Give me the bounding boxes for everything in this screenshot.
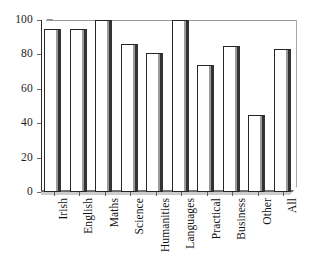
y-tick-label: 20 xyxy=(21,152,33,164)
y-tick-label: 80 xyxy=(21,49,33,61)
bar-slot xyxy=(44,20,61,192)
x-tick-label: English xyxy=(83,198,95,234)
x-tick-mark xyxy=(232,192,233,196)
bar-slot xyxy=(146,20,163,192)
bar-slot xyxy=(197,20,214,192)
bar-slot xyxy=(274,20,291,192)
y-tick-label: 60 xyxy=(21,83,33,95)
bar-slot xyxy=(121,20,138,192)
x-tick-mark xyxy=(181,192,182,196)
x-tick-mark xyxy=(79,192,80,196)
x-tick-label: Irish xyxy=(58,198,70,220)
x-tick-mark xyxy=(207,192,208,196)
bar-slot xyxy=(172,20,189,192)
x-tick-label: Science xyxy=(134,198,146,234)
y-tick-label: 100 xyxy=(15,14,33,26)
x-tick-mark xyxy=(105,192,106,196)
bar xyxy=(146,53,163,192)
bar xyxy=(172,20,189,192)
bar xyxy=(197,65,214,192)
x-tick-mark xyxy=(130,192,131,196)
y-tick-label: 0 xyxy=(27,186,33,198)
bar-slot xyxy=(70,20,87,192)
x-tick-mark xyxy=(258,192,259,196)
x-tick-label: Humanities xyxy=(160,198,172,252)
bar xyxy=(274,49,291,192)
x-tick-mark xyxy=(54,192,55,196)
y-tick-mark xyxy=(37,192,41,193)
bar-chart: 020406080100 IrishEnglishMathsScienceHum… xyxy=(0,0,318,267)
bar xyxy=(248,115,265,192)
y-axis: 020406080100 xyxy=(0,0,38,267)
x-axis: IrishEnglishMathsScienceHumanitiesLangua… xyxy=(41,196,296,267)
bar xyxy=(95,20,112,192)
bars-container xyxy=(41,20,296,192)
x-tick-mark xyxy=(283,192,284,196)
x-tick-label: Maths xyxy=(109,198,121,227)
x-tick-label: Business xyxy=(236,198,248,240)
x-tick-label: Languages xyxy=(185,198,197,249)
bar xyxy=(223,46,240,192)
bar-slot xyxy=(223,20,240,192)
x-tick-label: Other xyxy=(262,198,274,225)
x-tick-label: All xyxy=(287,198,299,213)
bar xyxy=(121,44,138,192)
x-tick-mark xyxy=(156,192,157,196)
plot-frame-right xyxy=(296,20,297,192)
x-tick-label: Practical xyxy=(211,198,223,239)
y-tick-label: 40 xyxy=(21,117,33,129)
bar xyxy=(70,29,87,192)
bar-slot xyxy=(95,20,112,192)
bar-slot xyxy=(248,20,265,192)
bar xyxy=(44,29,61,192)
